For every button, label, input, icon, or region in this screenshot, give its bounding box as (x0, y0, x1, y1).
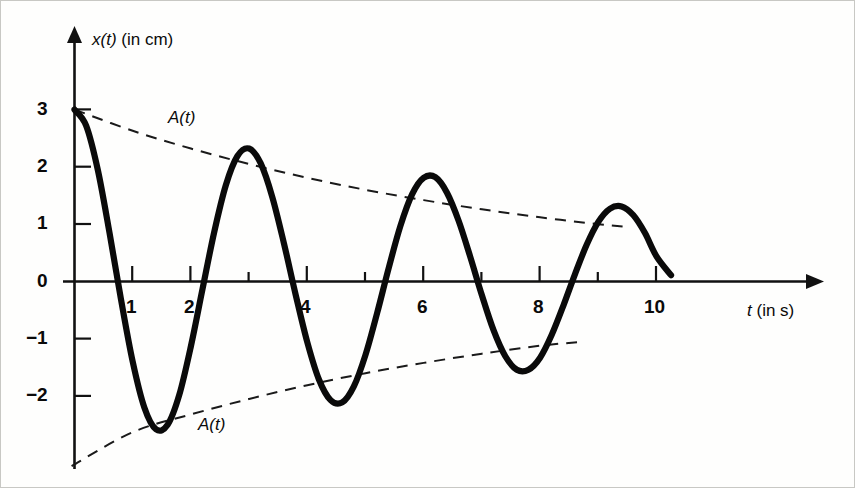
y-tick-label-0: 0 (37, 271, 48, 290)
y-axis-title-variable: x(t) (92, 30, 117, 49)
x-tick-label-1: 1 (126, 297, 137, 316)
envelope-lower-label: A(t) (198, 416, 225, 433)
y-tick-label-minus-2: −2 (26, 385, 48, 404)
envelope-upper-label: A(t) (168, 109, 195, 126)
damped-oscillation-curve (75, 110, 672, 431)
y-tick-label-minus-1: −1 (26, 328, 48, 347)
x-tick-label-10: 10 (644, 297, 665, 316)
y-axis-arrowhead (67, 26, 82, 43)
y-axis (67, 26, 82, 469)
y-axis-ticks (75, 109, 92, 396)
figure-frame: x(t) (in cm) t (in s) 3 2 1 0 −1 −2 1 2 … (0, 0, 855, 488)
y-tick-label-2: 2 (37, 156, 48, 175)
y-tick-label-3: 3 (37, 99, 48, 118)
envelope-lower-curve (72, 342, 578, 466)
x-axis-title-variable: t (747, 301, 752, 320)
x-axis-title: t (in s) (747, 302, 794, 319)
damped-oscillation-plot (1, 1, 855, 488)
x-tick-label-4: 4 (300, 297, 311, 316)
envelope-upper-label-text: A(t) (168, 108, 195, 127)
y-tick-label-1: 1 (37, 213, 48, 232)
x-tick-label-6: 6 (417, 297, 428, 316)
figure-page: x(t) (in cm) t (in s) 3 2 1 0 −1 −2 1 2 … (0, 0, 855, 488)
y-axis-title-unit: (in cm) (121, 30, 173, 49)
x-axis (63, 274, 824, 289)
envelope-upper-curve (75, 110, 628, 227)
x-axis-title-unit: (in s) (756, 301, 794, 320)
y-axis-title: x(t) (in cm) (92, 31, 173, 48)
x-axis-arrowhead (806, 274, 824, 289)
envelope-lower-label-text: A(t) (198, 415, 225, 434)
x-tick-label-8: 8 (533, 297, 544, 316)
x-tick-label-2: 2 (184, 297, 195, 316)
